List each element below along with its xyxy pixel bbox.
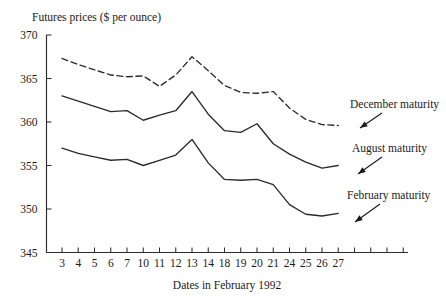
x-tick-label: 25 [300,257,312,269]
annotation-arrowhead-1 [358,167,366,174]
y-axis-tick-labels: 345350355360365370 [20,29,38,259]
annotations-group: December maturityAugust maturityFebruary… [347,98,439,222]
series-line-august-maturity [62,92,338,169]
y-tick-label: 345 [20,247,38,259]
annotation-label-august-maturity: August maturity [352,142,427,155]
x-tick-label: 19 [235,257,247,269]
x-axis-title: Dates in February 1992 [173,279,282,292]
annotation-label-february-maturity: February maturity [347,189,431,202]
x-tick-label: 11 [154,257,165,269]
series-line-february-maturity [62,139,338,216]
x-tick-label: 26 [316,257,328,269]
annotation-label-december-maturity: December maturity [350,98,439,111]
annotation-arrowhead-0 [360,121,368,128]
futures-prices-chart: Futures prices ($ per ounce) 34535035536… [0,0,446,308]
x-tick-label: 20 [251,257,263,269]
x-axis-ticks [62,248,403,253]
y-tick-label: 365 [20,73,38,85]
y-axis: 345350355360365370 [20,29,51,259]
x-tick-label: 6 [108,257,114,269]
x-tick-label: 27 [333,257,345,269]
chart-title: Futures prices ($ per ounce) [32,11,161,24]
x-axis-tick-labels: 3456710111213141819202124252627 [59,257,344,269]
y-tick-label: 370 [20,29,38,41]
data-series-group [62,57,338,216]
y-axis-ticks [47,35,52,253]
y-tick-label: 350 [20,203,38,215]
x-tick-label: 5 [92,257,98,269]
x-tick-label: 4 [75,257,81,269]
x-tick-label: 21 [268,257,280,269]
series-line-december-maturity [62,57,338,126]
x-tick-label: 7 [124,257,130,269]
x-tick-label: 3 [59,257,65,269]
x-tick-label: 10 [138,257,150,269]
annotation-arrowhead-2 [355,215,363,222]
x-axis: 3456710111213141819202124252627 [47,248,409,269]
x-tick-label: 24 [284,257,296,269]
x-tick-label: 13 [186,257,198,269]
x-tick-label: 18 [219,257,231,269]
y-tick-label: 355 [20,160,38,172]
x-tick-label: 12 [170,257,182,269]
x-tick-label: 14 [203,257,215,269]
y-tick-label: 360 [20,116,38,128]
chart-canvas: Futures prices ($ per ounce) 34535035536… [0,0,446,308]
